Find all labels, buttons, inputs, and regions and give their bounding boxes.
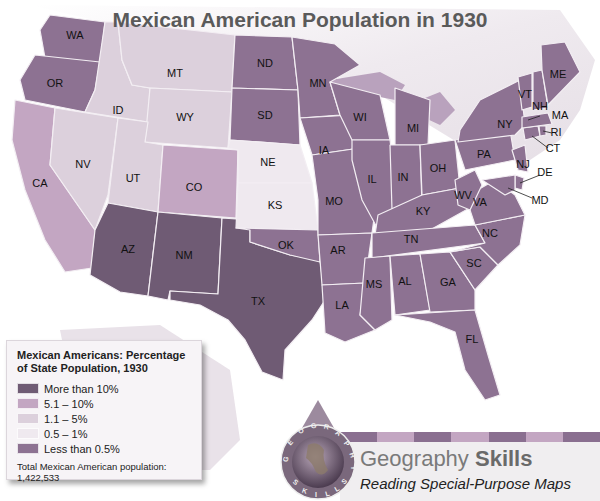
state-label-pa: PA — [477, 148, 492, 160]
banner-stripe — [340, 432, 600, 442]
map-title: Mexican American Population in 1930 — [0, 8, 600, 32]
state-ri — [539, 126, 546, 136]
stripe-segment — [526, 432, 563, 442]
state-label-ma: MA — [552, 109, 569, 121]
state-label-oh: OH — [430, 162, 447, 174]
state-label-wv: WV — [454, 189, 472, 201]
state-mt — [118, 22, 235, 92]
state-label-ok: OK — [278, 239, 295, 251]
state-label-ny: NY — [497, 118, 513, 130]
legend-title-line1: Mexican Americans: Percentage — [17, 349, 193, 362]
stripe-segment — [377, 432, 414, 442]
state-label-id: ID — [113, 104, 124, 116]
state-label-nv: NV — [75, 158, 91, 170]
state-label-sc: SC — [466, 257, 481, 269]
state-label-ca: CA — [32, 177, 48, 189]
state-label-me: ME — [550, 68, 567, 80]
state-ms — [360, 256, 392, 330]
legend-label: Less than 0.5% — [44, 443, 120, 455]
state-label-ga: GA — [440, 276, 457, 288]
legend-label: 0.5 – 1% — [44, 428, 87, 440]
legend-label: More than 10% — [44, 383, 119, 395]
state-label-wi: WI — [353, 111, 366, 123]
banner-heading-bold: Skills — [475, 446, 532, 471]
state-label-nd: ND — [257, 57, 273, 69]
geography-skills-banner: Geography Skills Reading Special-Purpose… — [340, 432, 600, 501]
state-label-vt: VT — [518, 88, 532, 100]
state-label-ky: KY — [416, 205, 431, 217]
banner-heading-regular: Geography — [360, 446, 475, 471]
state-label-nh: NH — [532, 100, 548, 112]
state-de — [515, 175, 524, 190]
stripe-segment — [451, 432, 488, 442]
state-label-ne: NE — [260, 156, 275, 168]
state-label-mn: MN — [309, 77, 326, 89]
state-label-mo: MO — [325, 195, 343, 207]
state-label-co: CO — [186, 181, 203, 193]
state-label-ar: AR — [330, 244, 345, 256]
legend-label: 1.1 – 5% — [44, 413, 87, 425]
state-label-mi: MI — [407, 122, 419, 134]
banner-heading: Geography Skills — [360, 446, 532, 472]
state-label-tn: TN — [404, 233, 419, 245]
legend-swatch — [17, 428, 39, 439]
state-label-az: AZ — [121, 243, 135, 255]
legend-item-more-than-10: More than 10% — [17, 381, 193, 396]
svg-text:I: I — [315, 491, 317, 498]
state-label-nc: NC — [482, 227, 498, 239]
map-legend: Mexican Americans: Percentage of State P… — [6, 340, 202, 480]
state-label-ut: UT — [126, 172, 141, 184]
legend-swatch — [17, 413, 39, 424]
legend-total-population: Total Mexican American population: 1,422… — [17, 461, 193, 483]
legend-title: Mexican Americans: Percentage of State P… — [17, 349, 193, 375]
state-label-sd: SD — [257, 109, 272, 121]
state-label-ia: IA — [319, 144, 330, 156]
banner-subtitle: Reading Special-Purpose Maps — [360, 475, 571, 492]
stripe-segment — [563, 432, 600, 442]
legend-swatch — [17, 443, 39, 454]
state-label-mt: MT — [167, 67, 183, 79]
state-label-de: DE — [537, 166, 552, 178]
svg-text:Y: Y — [350, 465, 357, 470]
legend-item-less-than-0.5: Less than 0.5% — [17, 441, 193, 456]
globe-icon: G E O G R A P H Y S K I L L S — [278, 400, 368, 501]
stripe-segment — [414, 432, 451, 442]
state-label-ks: KS — [268, 199, 283, 211]
legend-swatch — [17, 383, 39, 394]
state-label-fl: FL — [466, 333, 479, 345]
state-label-or: OR — [47, 77, 64, 89]
legend-item-5-to-10: 5.1 – 10% — [17, 396, 193, 411]
legend-title-line2: of State Population, 1930 — [17, 362, 193, 375]
state-label-ri: RI — [551, 126, 562, 138]
state-fl — [395, 310, 500, 400]
state-label-al: AL — [398, 275, 411, 287]
stripe-segment — [489, 432, 526, 442]
state-label-tx: TX — [251, 295, 266, 307]
legend-item-0.5-to-1: 0.5 – 1% — [17, 426, 193, 441]
state-label-in: IN — [398, 171, 409, 183]
state-label-wy: WY — [176, 111, 194, 123]
state-label-il: IL — [367, 173, 376, 185]
state-label-va: VA — [473, 196, 488, 208]
state-label-md: MD — [531, 194, 548, 206]
state-label-la: LA — [335, 299, 349, 311]
state-label-ms: MS — [366, 278, 383, 290]
state-label-nj: NJ — [516, 158, 529, 170]
legend-item-1-to-5: 1.1 – 5% — [17, 411, 193, 426]
legend-swatch — [17, 398, 39, 409]
state-label-nm: NM — [175, 249, 192, 261]
legend-label: 5.1 – 10% — [44, 398, 94, 410]
